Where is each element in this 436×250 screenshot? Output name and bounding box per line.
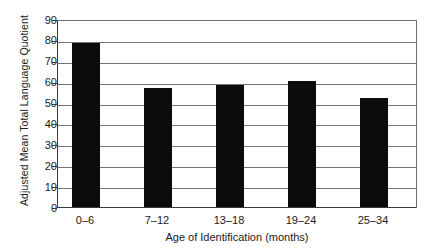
bar: [72, 43, 100, 207]
y-axis-tick-mark: [52, 20, 57, 21]
y-axis-tick-mark: [52, 208, 57, 209]
y-axis-tick-mark: [52, 145, 57, 146]
x-axis-tick-label: 13–18: [199, 214, 259, 227]
y-axis-tick-mark: [52, 187, 57, 188]
x-axis-tick-label: 25–34: [343, 214, 403, 227]
y-axis-tick-mark: [52, 41, 57, 42]
y-axis-tick-mark: [52, 83, 57, 84]
y-axis-tick-mark: [52, 166, 57, 167]
bar-chart: Adjusted Mean Total Language Quotient 01…: [0, 0, 436, 250]
x-axis-title: Age of Identification (months): [57, 231, 417, 244]
bar: [360, 98, 388, 207]
x-axis-tick-label: 7–12: [127, 214, 187, 227]
gridline: [58, 42, 416, 43]
y-axis-tick-mark: [52, 104, 57, 105]
bar: [216, 85, 244, 207]
x-axis-tick-label: 19–24: [271, 214, 331, 227]
x-axis-tick-label: 0–6: [55, 214, 115, 227]
gridline: [58, 63, 416, 64]
y-axis-tick-mark: [52, 62, 57, 63]
plot-area: [57, 20, 417, 208]
bar: [288, 81, 316, 207]
bar: [144, 88, 172, 207]
y-axis-tick-mark: [52, 124, 57, 125]
